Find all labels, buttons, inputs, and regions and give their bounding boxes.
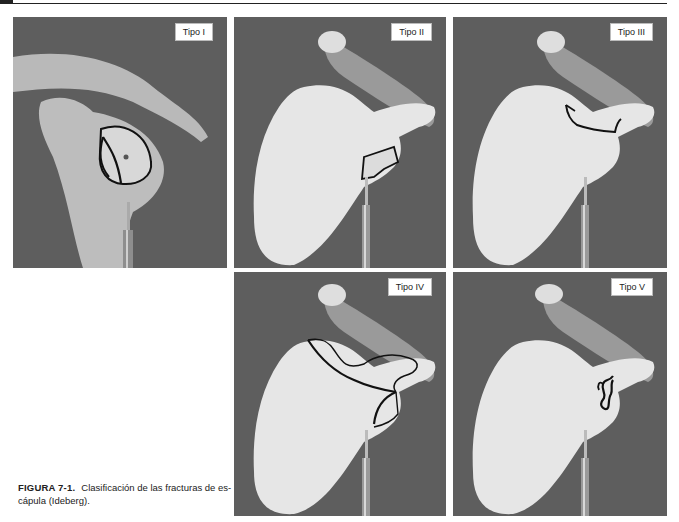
panel-tipo-5: Tipo V bbox=[453, 272, 667, 516]
panel-label: Tipo III bbox=[610, 23, 653, 41]
panel-label: Tipo II bbox=[391, 23, 432, 41]
panel-tipo-3: Tipo III bbox=[453, 17, 667, 268]
header-rule bbox=[13, 3, 667, 4]
panel-tipo-4: Tipo IV bbox=[234, 272, 446, 516]
scapula-lateral-illustration bbox=[13, 17, 227, 268]
scapula-anterior-illustration bbox=[234, 17, 446, 268]
scapula-anterior-illustration bbox=[234, 272, 446, 516]
panel-label: Tipo V bbox=[611, 278, 653, 296]
page-number-mark bbox=[0, 0, 13, 4]
figure-caption: FIGURA 7-1.Clasificación de las fractura… bbox=[18, 481, 233, 507]
panel-tipo-1: Tipo I bbox=[13, 17, 227, 268]
scapula-anterior-illustration bbox=[453, 272, 667, 516]
caption-line-2: cápula (Ideberg). bbox=[18, 495, 90, 506]
caption-line-1: Clasificación de las fracturas de es- bbox=[81, 482, 231, 493]
panel-label: Tipo IV bbox=[388, 278, 432, 296]
panel-label: Tipo I bbox=[175, 23, 213, 41]
scapula-anterior-illustration bbox=[453, 17, 667, 268]
figure-number: FIGURA 7-1. bbox=[18, 482, 75, 493]
panel-tipo-2: Tipo II bbox=[234, 17, 446, 268]
